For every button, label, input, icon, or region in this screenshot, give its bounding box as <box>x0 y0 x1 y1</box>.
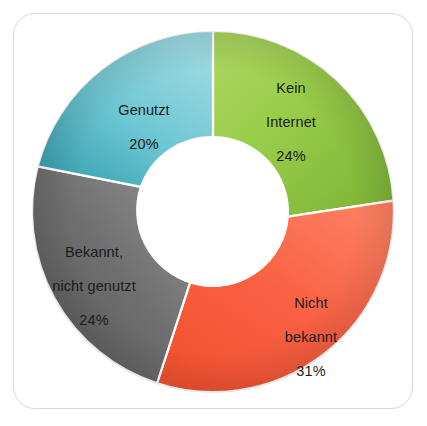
donut-chart-svg <box>0 0 427 426</box>
donut-hole <box>138 137 288 287</box>
chart-page: Kein Internet 24% Nicht bekannt 31% Beka… <box>0 0 427 426</box>
donut-chart: Kein Internet 24% Nicht bekannt 31% Beka… <box>0 0 427 426</box>
